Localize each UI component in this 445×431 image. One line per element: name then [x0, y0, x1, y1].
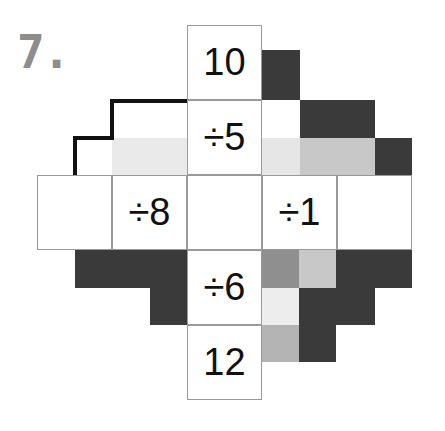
cell-center[interactable]: [187, 175, 262, 250]
division-puzzle-figure: 7. 10 ÷5: [0, 0, 445, 431]
cell-top-inner[interactable]: ÷5: [187, 100, 262, 175]
puzzle-grid: 10 ÷5 ÷8 ÷1 ÷6 12: [0, 0, 445, 431]
cell-left-outer[interactable]: [37, 175, 112, 250]
cell-top-outer[interactable]: 10: [187, 25, 262, 100]
cell-bottom-outer[interactable]: 12: [187, 325, 262, 400]
cell-bottom-inner[interactable]: ÷6: [187, 250, 262, 325]
cell-right-inner[interactable]: ÷1: [262, 175, 337, 250]
cell-left-inner[interactable]: ÷8: [112, 175, 187, 250]
cell-right-outer[interactable]: [337, 175, 412, 250]
